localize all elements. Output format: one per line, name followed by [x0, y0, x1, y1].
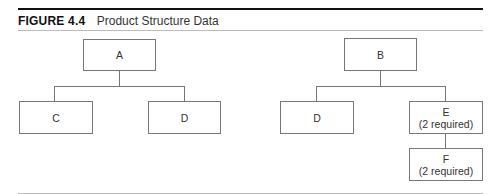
- node-f: F (2 required): [409, 148, 483, 181]
- connector: [54, 86, 185, 87]
- figure-title: FIGURE 4.4 Product Structure Data: [18, 14, 219, 28]
- node-label: D: [313, 112, 321, 124]
- connector: [184, 86, 185, 101]
- connector: [445, 134, 446, 148]
- node-b: B: [344, 38, 417, 71]
- node-quantity: (2 required): [419, 165, 473, 177]
- node-d: D: [280, 101, 354, 134]
- figure-label: FIGURE 4.4: [18, 14, 85, 28]
- node-label: F: [443, 153, 449, 165]
- node-label: E: [442, 106, 449, 118]
- node-label: C: [52, 112, 60, 124]
- node-d: D: [148, 101, 221, 134]
- node-quantity: (2 required): [419, 118, 473, 130]
- top-rule: [18, 8, 483, 10]
- node-a: A: [83, 39, 156, 71]
- connector: [119, 71, 120, 86]
- title-rule: [18, 30, 483, 31]
- connector: [316, 86, 446, 87]
- connector: [445, 86, 446, 101]
- bottom-rule: [18, 193, 483, 194]
- node-label: B: [377, 49, 384, 61]
- node-label: D: [181, 112, 189, 124]
- connector: [54, 86, 55, 101]
- connector: [380, 71, 381, 86]
- node-e: E (2 required): [409, 101, 483, 134]
- node-c: C: [19, 101, 93, 134]
- figure-caption: Product Structure Data: [97, 14, 219, 28]
- connector: [316, 86, 317, 101]
- node-label: A: [116, 49, 123, 61]
